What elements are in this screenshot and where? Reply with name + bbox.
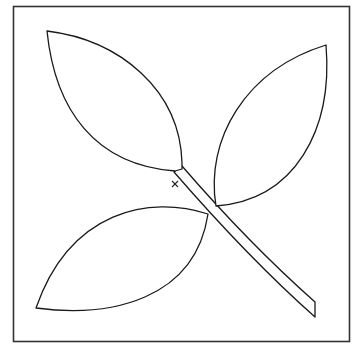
leaf-drawing [0, 0, 354, 350]
leaf-top-left [47, 31, 182, 171]
leaf-right [214, 45, 327, 206]
cross-marker [172, 181, 178, 187]
leaf-bottom-left [36, 207, 208, 311]
